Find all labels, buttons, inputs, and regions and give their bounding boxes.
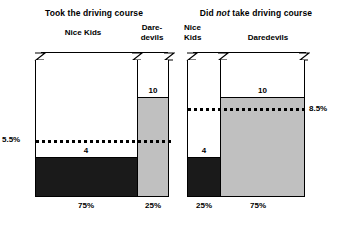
reference-label-did-not-take-course: 8.5% [309, 104, 327, 113]
bar-value-nice-kids-did-not-take-course: 4 [187, 146, 221, 155]
reference-label-took-course: 5.5% [2, 135, 20, 144]
width-label-daredevils-did-not-take-course: 75% [228, 201, 288, 210]
bar-nice-kids-did-not-take-course [187, 60, 221, 197]
group-label-daredevils: Daredevils [228, 33, 308, 43]
width-label-nice-kids-did-not-take-course: 25% [186, 201, 222, 210]
panel-title-part-pre: Did [200, 8, 216, 18]
bar-value-nice-kids-took-course: 4 [54, 146, 118, 155]
group-label-nice-kids-text: Nice Kids [184, 23, 201, 42]
group-label-nice-kids: Nice Kids [48, 28, 118, 38]
bar-nice-kids-took-course [35, 60, 138, 197]
panel-top-rule [41, 52, 168, 53]
bar-daredevils-took-course [137, 60, 169, 197]
bar-daredevils-did-not-take-course [220, 60, 305, 197]
bar-fill-nice-kids [36, 157, 137, 196]
bar-value-daredevils-took-course: 10 [137, 86, 169, 95]
panel-title-did-not-take-course: Did not take driving course [186, 8, 326, 18]
bar-fill-nice-kids [188, 157, 220, 196]
panel-title-took-course: Took the driving course [24, 8, 164, 18]
panel-took-course: Took the driving course Nice Kids Dare- … [0, 0, 178, 228]
figure-canvas: Took the driving course Nice Kids Dare- … [0, 0, 355, 228]
reference-line-took-course [36, 140, 172, 143]
bar-fill-daredevils [221, 97, 304, 196]
group-label-daredevils: Dare- devils [130, 23, 174, 42]
width-label-nice-kids-took-course: 75% [54, 201, 118, 210]
panel-title-part-italic: not [216, 8, 230, 18]
width-label-daredevils-took-course: 25% [135, 201, 171, 210]
panel-did-not-take-course: Did not take driving course Nice Kids Da… [178, 0, 355, 228]
panel-title-part-post: take driving course [230, 8, 312, 18]
bar-value-daredevils-did-not-take-course: 10 [220, 86, 305, 95]
panel-top-rule [193, 52, 306, 53]
bar-fill-daredevils [138, 97, 168, 196]
reference-line-did-not-take-course [188, 108, 305, 111]
group-label-nice-kids: Nice Kids [184, 23, 224, 42]
